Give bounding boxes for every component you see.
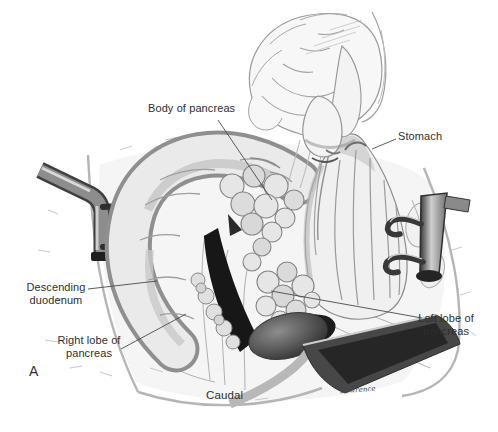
surgical-illustration-figure: Body of pancreas Stomach Descending duod…: [0, 0, 498, 432]
anatomical-illustration: [0, 0, 498, 432]
orientation-caption: Caudal: [206, 389, 243, 403]
label-stomach: Stomach: [398, 130, 442, 143]
label-descending-duodenum: Descending duodenum: [14, 281, 98, 307]
label-body-of-pancreas: Body of pancreas: [148, 102, 235, 115]
label-left-lobe-of-pancreas: Left lobe of pancreas: [412, 312, 480, 338]
surgeon-hand: [249, 12, 386, 162]
label-right-lobe-of-pancreas: Right lobe of pancreas: [52, 334, 126, 360]
panel-label: A: [29, 363, 38, 380]
leader-stomach: [372, 139, 396, 149]
